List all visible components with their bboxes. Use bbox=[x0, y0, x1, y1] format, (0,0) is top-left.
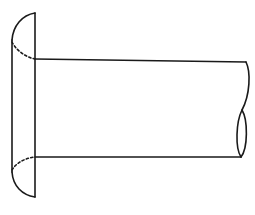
rivet-head bbox=[12, 13, 35, 197]
head-hidden-top-curve bbox=[12, 42, 35, 59]
rivet-diagram bbox=[0, 0, 255, 215]
head-bottom-curve bbox=[12, 172, 35, 197]
rivet-shaft bbox=[35, 59, 246, 157]
shaft-top-edge bbox=[35, 59, 246, 62]
break-curve-inner bbox=[241, 110, 246, 157]
break-symbol bbox=[237, 62, 249, 157]
head-top-curve bbox=[12, 13, 35, 40]
head-hidden-bottom-curve bbox=[12, 157, 35, 170]
break-curve-outer bbox=[237, 62, 249, 157]
